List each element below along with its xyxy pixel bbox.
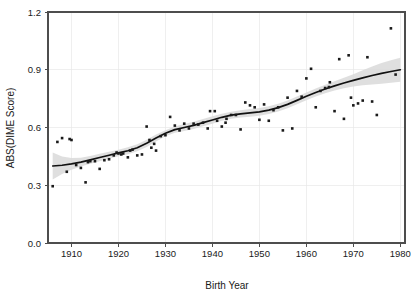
data-point [206, 127, 209, 130]
data-point [127, 156, 130, 159]
data-point [87, 161, 90, 164]
y-tick-label: 0.9 [28, 64, 41, 75]
data-point [328, 86, 331, 89]
data-point [80, 167, 83, 170]
data-point [103, 159, 106, 162]
data-point [145, 125, 148, 128]
data-point [350, 96, 353, 99]
data-point [310, 67, 313, 70]
data-point [202, 121, 205, 124]
data-point [221, 125, 224, 128]
data-point [155, 149, 158, 152]
data-point [286, 96, 289, 99]
data-point [329, 81, 332, 84]
data-point [263, 103, 266, 106]
data-point [366, 56, 369, 59]
data-point [108, 158, 111, 161]
data-point [277, 106, 280, 109]
data-point [343, 118, 346, 121]
tick-marks [45, 12, 401, 247]
data-point [225, 118, 228, 121]
data-point [224, 121, 227, 124]
data-point [394, 73, 397, 76]
data-point [244, 101, 247, 104]
x-tick-labels: 19101920193019401950196019701980 [61, 248, 411, 259]
data-point [209, 110, 212, 113]
data-point [51, 185, 54, 188]
x-tick-label: 1910 [61, 248, 82, 259]
x-tick-label: 1970 [343, 248, 364, 259]
data-point [272, 109, 275, 112]
data-point [314, 106, 317, 109]
data-point [324, 87, 327, 90]
data-point [164, 134, 167, 137]
data-point [296, 90, 299, 93]
data-point [122, 152, 125, 155]
data-point [216, 119, 219, 122]
data-point [98, 168, 101, 171]
x-axis-title: Birth Year [205, 280, 249, 291]
data-point [357, 102, 360, 105]
data-point [235, 114, 238, 117]
data-point [333, 110, 336, 113]
data-point [159, 135, 162, 138]
data-point [305, 77, 308, 80]
data-point [291, 127, 294, 130]
data-point [192, 122, 195, 125]
data-point [282, 129, 285, 132]
data-point [129, 149, 132, 152]
data-point [376, 114, 379, 117]
data-point [150, 146, 153, 149]
data-point [319, 90, 322, 93]
data-point [197, 123, 200, 126]
x-tick-label: 1950 [249, 248, 270, 259]
gridlines [48, 12, 405, 243]
data-points [51, 27, 397, 187]
chart-canvas: 19101920193019401950196019701980 0.00.30… [0, 0, 418, 297]
data-point [178, 129, 181, 132]
x-tick-label: 1980 [390, 248, 411, 259]
data-point [239, 128, 242, 131]
data-point [267, 119, 270, 122]
data-point [230, 114, 233, 117]
data-point [61, 137, 64, 140]
data-point [70, 139, 73, 142]
data-point [174, 124, 177, 127]
data-point [56, 141, 59, 144]
x-tick-label: 1930 [155, 248, 176, 259]
data-point [94, 160, 97, 163]
data-point [169, 116, 172, 119]
x-tick-label: 1960 [296, 248, 317, 259]
scatter-chart: 19101920193019401950196019701980 0.00.30… [0, 0, 418, 297]
data-point [131, 148, 134, 151]
data-point [361, 99, 364, 102]
data-point [300, 95, 303, 98]
data-point [141, 153, 144, 156]
data-point [352, 104, 355, 107]
y-tick-label: 0.3 [28, 180, 41, 191]
data-point [183, 122, 186, 125]
data-point [390, 27, 393, 30]
y-tick-label: 1.2 [28, 7, 41, 18]
y-axis-title: ABS(DIME Score) [5, 88, 16, 169]
data-point [253, 106, 256, 109]
data-point [338, 58, 341, 61]
data-point [153, 143, 156, 146]
data-point [112, 154, 115, 157]
y-tick-label: 0.6 [28, 122, 41, 133]
data-point [117, 152, 120, 155]
data-point [148, 139, 151, 142]
data-point [347, 54, 350, 57]
x-tick-label: 1920 [108, 248, 129, 259]
data-point [371, 100, 374, 103]
data-point [136, 154, 139, 157]
data-point [89, 160, 92, 163]
data-point [249, 104, 252, 107]
data-point [258, 119, 261, 122]
x-tick-label: 1940 [202, 248, 223, 259]
data-point [188, 127, 191, 130]
y-tick-label: 0.0 [28, 238, 41, 249]
data-point [84, 181, 87, 184]
data-point [75, 164, 78, 167]
data-point [65, 170, 68, 173]
